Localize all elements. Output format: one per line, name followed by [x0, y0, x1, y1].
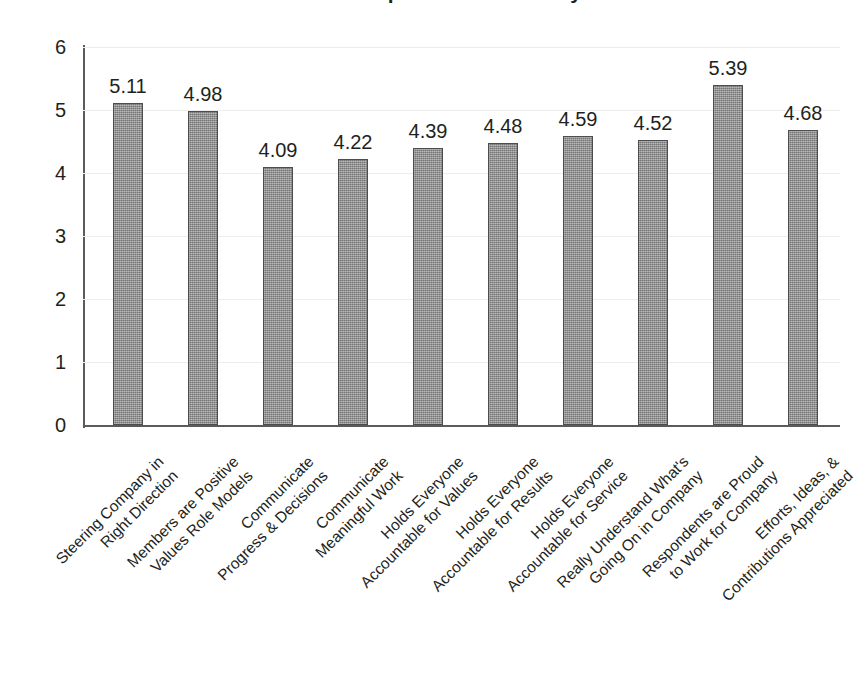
y-tick-label: 4: [0, 163, 66, 183]
bar[interactable]: [413, 148, 443, 425]
y-tick-label: 0: [0, 415, 66, 435]
y-tick-label: 6: [0, 37, 66, 57]
bar-value-label: 4.98: [158, 84, 248, 104]
bar-value-label: 4.52: [608, 113, 698, 133]
chart-page: Leadership & Culture Survey 0123456 5.11…: [0, 0, 868, 689]
bar-value-label: 4.68: [758, 103, 848, 123]
bar[interactable]: [563, 136, 593, 425]
bar-value-label: 5.39: [683, 58, 773, 78]
gridline: [83, 47, 840, 48]
bar[interactable]: [638, 140, 668, 425]
bar[interactable]: [188, 111, 218, 425]
y-tick-label: 3: [0, 226, 66, 246]
bar[interactable]: [488, 143, 518, 425]
bar[interactable]: [113, 103, 143, 425]
bar[interactable]: [788, 130, 818, 425]
clipped-chart-title: Leadership & Culture Survey: [0, 0, 868, 6]
bar[interactable]: [263, 167, 293, 425]
bar[interactable]: [713, 85, 743, 425]
y-tick-label: 1: [0, 352, 66, 372]
bar[interactable]: [338, 159, 368, 425]
y-tick-label: 2: [0, 289, 66, 309]
y-tick-label: 5: [0, 100, 66, 120]
